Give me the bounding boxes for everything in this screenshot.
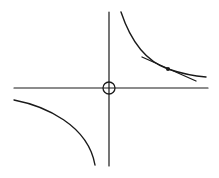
hyperbola-diagram <box>0 0 219 178</box>
tangent-point <box>166 67 170 71</box>
lower-left-branch <box>14 100 95 165</box>
